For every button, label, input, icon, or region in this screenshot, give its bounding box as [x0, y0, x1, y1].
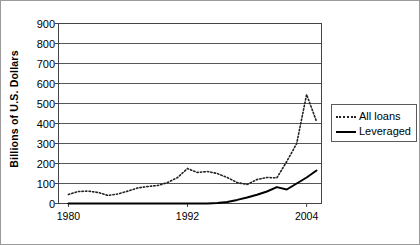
series-line-all-loans — [68, 95, 316, 196]
plot-frame — [59, 24, 322, 204]
legend-label-leveraged: Leveraged — [359, 125, 411, 137]
legend-label-all-loans: All loans — [359, 110, 401, 122]
chart-figure: Billions of U.S. Dollars 010020030040050… — [0, 0, 420, 245]
solid-line-key-icon — [336, 126, 356, 136]
dashed-line-key-icon — [336, 111, 356, 121]
gridlines — [59, 24, 322, 184]
legend: All loans Leveraged — [331, 104, 417, 142]
legend-item-leveraged: Leveraged — [336, 123, 411, 138]
series-line-leveraged — [68, 171, 316, 204]
y-tick-marks — [55, 24, 59, 204]
legend-item-all-loans: All loans — [336, 108, 411, 123]
